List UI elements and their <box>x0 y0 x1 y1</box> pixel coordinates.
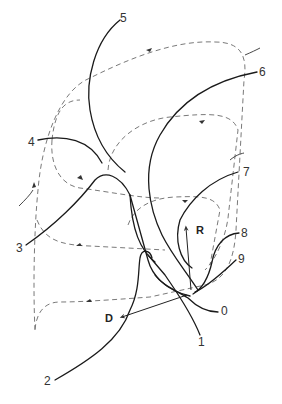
dashed-flow-loops <box>34 42 245 330</box>
label-r: R <box>196 224 204 236</box>
vector-r <box>186 228 191 290</box>
arrow-icon <box>146 48 152 52</box>
arrow-icon <box>76 243 82 246</box>
incoming-7 <box>230 153 244 160</box>
label-5: 5 <box>120 11 127 25</box>
label-2: 2 <box>44 374 51 388</box>
left-return <box>37 220 165 250</box>
arrow-icon <box>32 182 36 188</box>
incoming-left <box>19 190 33 206</box>
label-0: 0 <box>221 304 228 318</box>
label-8: 8 <box>241 226 248 240</box>
label-9: 9 <box>238 252 245 266</box>
trajectory-diagram: 5 6 4 7 3 8 9 0 1 2 R D <box>0 0 282 404</box>
label-7: 7 <box>243 165 250 179</box>
curve-7 <box>178 172 238 268</box>
label-d: D <box>105 312 113 324</box>
solid-trajectories <box>26 20 257 380</box>
middle-loop <box>52 100 160 198</box>
flow-arrows <box>32 48 205 302</box>
curve-5 <box>89 20 125 172</box>
label-4: 4 <box>28 135 35 149</box>
arrow-icon <box>182 200 188 203</box>
label-6: 6 <box>259 65 266 79</box>
outer-loop <box>34 42 245 330</box>
curve-1 <box>148 255 200 335</box>
incoming-6 <box>245 48 260 55</box>
arrow-icon <box>199 120 205 124</box>
curve-4 <box>38 138 102 163</box>
label-1: 1 <box>198 335 205 349</box>
curve-3 <box>26 175 190 296</box>
inner-loop-1 <box>108 115 238 270</box>
label-3: 3 <box>16 241 23 255</box>
arrow-icon <box>77 175 83 180</box>
curve-2 <box>55 251 152 380</box>
arrow-icon <box>86 299 92 302</box>
